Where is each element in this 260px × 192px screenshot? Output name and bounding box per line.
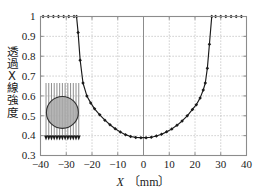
x-tick-label: 20 [190, 158, 202, 170]
x-tick-label: 0 [141, 158, 147, 170]
chart-canvas: −40−30−20−100102030400.30.40.50.60.70.80… [0, 0, 260, 192]
transmitted-xray-intensity-chart: −40−30−20−100102030400.30.40.50.60.70.80… [0, 0, 260, 192]
x-axis-symbol: X [115, 175, 124, 189]
y-tick-label: 0.9 [22, 30, 36, 42]
x-tick-labels: −40−30−20−10010203040 [32, 158, 253, 170]
y-tick-label: 0.3 [22, 149, 36, 161]
x-tick-label: −10 [109, 158, 127, 170]
y-tick-label: 0.6 [22, 90, 36, 102]
y-tick-label: 0.8 [22, 50, 36, 62]
x-tick-label: 10 [164, 158, 176, 170]
x-tick-label: −20 [83, 158, 101, 170]
x-axis-title-text: X〔mm〕 [115, 175, 170, 189]
y-tick-label: 1 [30, 10, 36, 22]
x-tick-label: −30 [58, 158, 76, 170]
x-axis-title: X〔mm〕 [115, 175, 170, 189]
y-tick-label: 0.4 [22, 129, 36, 141]
y-tick-label: 0.5 [22, 110, 36, 122]
y-tick-label: 0.7 [22, 70, 36, 82]
y-axis-title-char: 度 [7, 106, 19, 120]
x-tick-label: 40 [241, 158, 253, 170]
y-axis-title: 透過X線強度 [7, 45, 19, 120]
x-tick-label: 30 [215, 158, 227, 170]
x-axis-unit: 〔mm〕 [128, 175, 171, 189]
sample-circle [46, 96, 78, 128]
